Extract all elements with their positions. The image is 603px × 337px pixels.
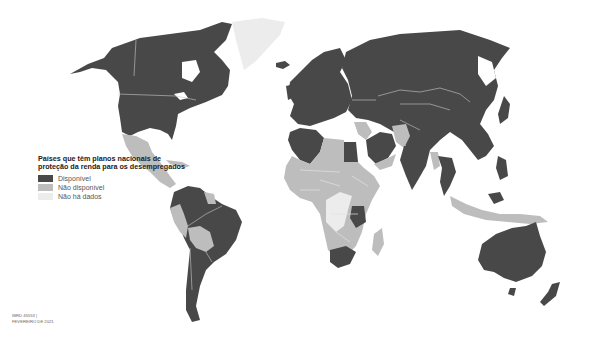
world-map: Países que têm planos nacionais de prote… (0, 0, 603, 337)
map-credits: IBRD 45553 | FEVEREIRO DE 2021 (12, 313, 54, 324)
legend-label-available: Disponível (58, 175, 91, 182)
swatch-nodata (38, 193, 53, 201)
legend-label-nodata: Não há dados (58, 193, 102, 200)
region-tasmania (508, 288, 516, 296)
region-philippines (496, 156, 508, 180)
legend-label-unavailable: Não disponível (58, 184, 104, 191)
swatch-unavailable (38, 184, 53, 192)
map-legend: Países que têm planos nacionais de prote… (38, 155, 188, 201)
region-myanmar (430, 152, 440, 170)
region-greenland (232, 18, 285, 70)
legend-item-unavailable: Não disponível (38, 183, 188, 192)
region-madagascar (372, 228, 384, 256)
legend-item-available: Disponível (38, 174, 188, 183)
region-indochina (438, 156, 456, 196)
region-japan (498, 96, 510, 124)
legend-title: Países que têm planos nacionais de prote… (38, 155, 188, 172)
region-egypt (344, 142, 358, 162)
region-iceland (276, 61, 290, 69)
region-malaysia-borneo (488, 192, 504, 204)
legend-item-nodata: Não há dados (38, 192, 188, 201)
region-australia (478, 222, 546, 282)
credits-date: FEVEREIRO DE 2021 (12, 319, 54, 325)
region-north-america (70, 22, 232, 140)
region-europe (288, 48, 352, 126)
region-india (400, 144, 430, 190)
swatch-available (38, 175, 53, 183)
region-middle-east-unavailable (354, 122, 372, 140)
region-new-zealand (540, 282, 560, 306)
